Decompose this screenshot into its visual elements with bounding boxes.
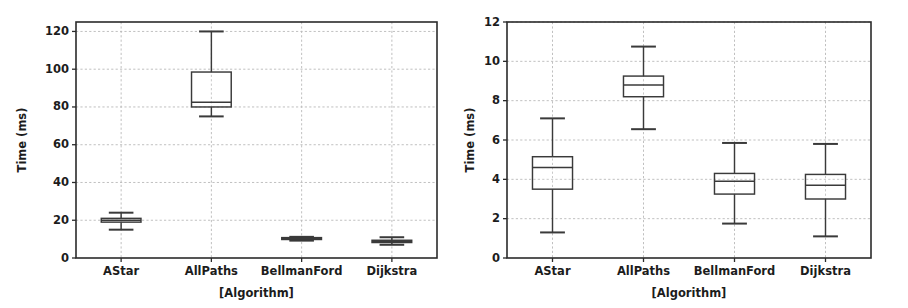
boxplot-box-bellmanford (714, 143, 754, 224)
boxplot-box-bellmanford (282, 237, 322, 241)
y-tick-label: 0 (61, 251, 69, 265)
y-axis-title: Time (ms) (15, 108, 29, 173)
y-tick-label: 10 (484, 54, 500, 68)
x-tick-label-bellmanford: BellmanFord (694, 264, 776, 278)
x-tick-label-dijkstra: Dijkstra (800, 264, 851, 278)
y-tick-label: 8 (492, 93, 500, 107)
boxplot-svg-right: 024681012AStarAllPathsBellmanFordDijkstr… (454, 0, 908, 308)
boxplot-box-astar (532, 118, 572, 232)
y-tick-label: 4 (492, 172, 500, 186)
x-tick-label-dijkstra: Dijkstra (366, 264, 417, 278)
x-tick-label-allpaths: AllPaths (617, 264, 670, 278)
x-tick-label-astar: AStar (534, 264, 570, 278)
boxplot-box-astar (101, 213, 141, 230)
boxplot-box-allpaths (192, 31, 232, 116)
box-iqr (714, 173, 754, 194)
box-iqr (805, 174, 845, 199)
y-tick-label: 6 (492, 133, 500, 147)
y-tick-label: 12 (484, 15, 500, 29)
box-iqr (623, 76, 663, 97)
y-tick-label: 2 (492, 211, 500, 225)
x-tick-label-allpaths: AllPaths (185, 264, 238, 278)
figure-root: 020406080100120AStarAllPathsBellmanFordD… (0, 0, 908, 308)
y-tick-label: 20 (53, 213, 69, 227)
boxplot-panel-left: 020406080100120AStarAllPathsBellmanFordD… (0, 0, 454, 308)
boxplot-box-allpaths (623, 47, 663, 130)
y-tick-label: 40 (53, 175, 69, 189)
boxplot-box-dijkstra (372, 237, 412, 245)
y-tick-label: 100 (45, 62, 69, 76)
boxplot-box-dijkstra (805, 144, 845, 236)
x-axis-title: [Algorithm] (652, 286, 727, 300)
y-tick-label: 80 (53, 99, 69, 113)
y-tick-label: 60 (53, 137, 69, 151)
boxplot-svg-left: 020406080100120AStarAllPathsBellmanFordD… (0, 0, 454, 308)
y-axis-title: Time (ms) (463, 108, 477, 173)
x-tick-label-bellmanford: BellmanFord (261, 264, 343, 278)
x-tick-label-astar: AStar (103, 264, 139, 278)
x-axis-title: [Algorithm] (219, 286, 294, 300)
y-tick-label: 120 (45, 24, 69, 38)
boxplot-panel-right: 024681012AStarAllPathsBellmanFordDijkstr… (454, 0, 908, 308)
y-tick-label: 0 (492, 251, 500, 265)
box-iqr (532, 157, 572, 189)
